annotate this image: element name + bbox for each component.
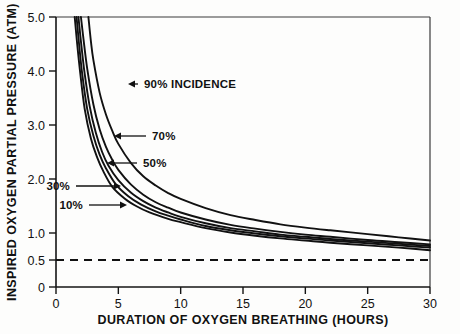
annotation-label: 10%	[59, 199, 83, 211]
incidence-curves	[75, 17, 430, 250]
annotation-label: 50%	[143, 157, 167, 169]
x-axis-ticks	[56, 287, 430, 294]
y-axis-ticks	[49, 17, 56, 287]
y-tick-label: 0.5	[28, 254, 45, 268]
x-tick-label: 25	[361, 297, 375, 311]
annotation-group: 10%	[59, 199, 127, 211]
y-tick-label: 2.0	[28, 173, 45, 187]
oxygen-toxicity-chart: 00.51.02.03.04.05.0 051015202530 90% INC…	[0, 0, 460, 334]
x-tick-label: 0	[53, 297, 60, 311]
curve-annotations: 90% INCIDENCE70%50%30%10%	[46, 78, 236, 211]
annotation-group: 70%	[114, 130, 176, 142]
x-tick-label: 5	[115, 297, 122, 311]
chart-page: 00.51.02.03.04.05.0 051015202530 90% INC…	[0, 0, 460, 334]
x-axis-tick-labels: 051015202530	[53, 297, 437, 311]
y-tick-label: 3.0	[28, 119, 45, 133]
annotation-label: 70%	[152, 130, 176, 142]
annotation-label: 90% INCIDENCE	[144, 78, 236, 90]
incidence-curve	[75, 17, 430, 250]
y-tick-label: 5.0	[28, 11, 45, 25]
x-tick-label: 20	[298, 297, 312, 311]
annotation-group: 90% INCIDENCE	[128, 78, 236, 90]
incidence-curve	[77, 17, 430, 248]
x-tick-label: 15	[236, 297, 250, 311]
annotation-arrow-icon	[120, 201, 127, 208]
x-axis-title: DURATION OF OXYGEN BREATHING (HOURS)	[97, 313, 388, 327]
incidence-curve	[78, 17, 430, 246]
incidence-curve	[81, 17, 430, 244]
annotation-label: 30%	[46, 180, 70, 192]
y-tick-label: 4.0	[28, 65, 45, 79]
x-tick-label: 30	[423, 297, 437, 311]
annotation-arrow-icon	[128, 80, 135, 87]
y-axis-tick-labels: 00.51.02.03.04.05.0	[28, 11, 45, 295]
y-tick-label: 1.0	[28, 227, 45, 241]
y-tick-label: 0	[38, 281, 45, 295]
x-tick-label: 10	[174, 297, 188, 311]
y-axis-title: INSPIRED OXYGEN PARTIAL PRESSURE (ATM)	[5, 3, 19, 301]
